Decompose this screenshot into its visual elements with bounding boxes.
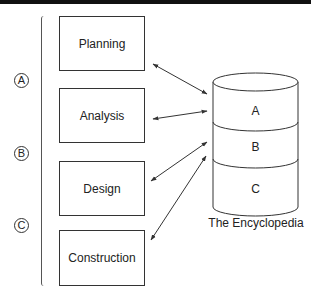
cylinder-top [213, 73, 298, 91]
arrow-analysis-encyclopedia [153, 111, 207, 119]
encyclopedia-caption: The Encyclopedia [200, 216, 311, 230]
encyclopedia-cylinder: A B C [213, 73, 298, 216]
arrow-design-encyclopedia [151, 142, 207, 181]
arrow-planning-encyclopedia [153, 64, 207, 94]
segment-label-a: A [251, 104, 259, 118]
segment-label-b: B [251, 140, 259, 154]
diagram-canvas: A B C [0, 0, 311, 298]
segment-label-c: C [251, 182, 260, 196]
arrow-construction-encyclopedia [151, 156, 206, 240]
